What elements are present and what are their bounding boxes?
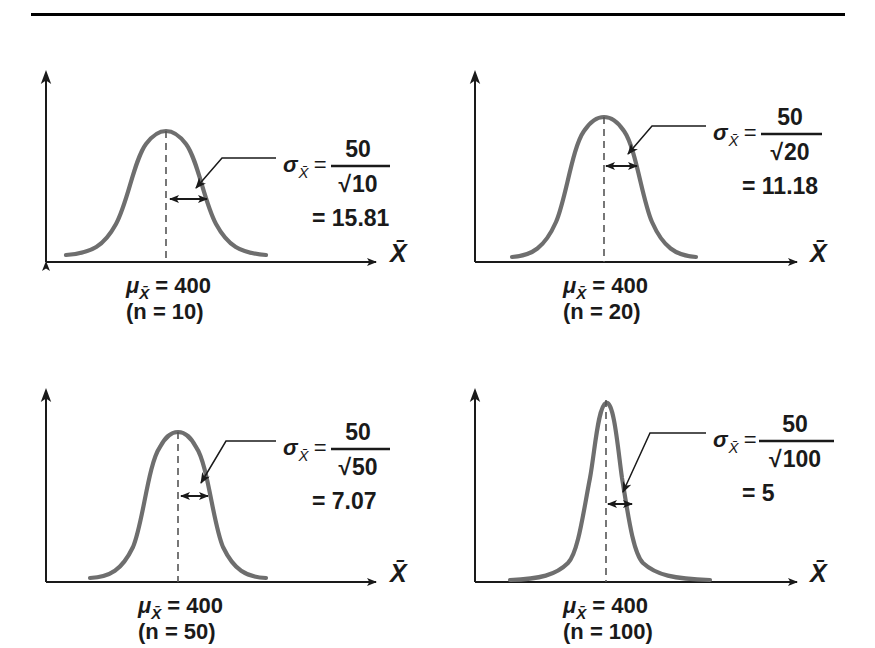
panel-n100-x-axis-label: X̄ bbox=[808, 559, 828, 587]
panel-n100: σX̄= 50 √100 = 5 X̄ μX̄= 400 (n = 100) bbox=[470, 388, 834, 644]
panel-n100-numerator: 50 bbox=[782, 411, 808, 437]
panel-n50-mean-label: μX̄= 400 bbox=[137, 593, 223, 622]
panel-n10-x-axis-label: X̄ bbox=[388, 239, 408, 267]
panel-n20-denominator: √20 bbox=[770, 139, 809, 165]
panel-n50-denominator: √50 bbox=[338, 454, 377, 480]
panel-n10-mean-label: μX̄= 400 bbox=[125, 273, 211, 302]
panel-n100-sigma-label: σX̄= bbox=[713, 427, 756, 456]
panel-n50-result: = 7.07 bbox=[312, 488, 377, 514]
panel-n20-sample-size-label: (n = 20) bbox=[563, 299, 641, 324]
panel-n50-sigma-label: σX̄= bbox=[283, 435, 326, 464]
panel-n20-mean-label: μX̄= 400 bbox=[562, 273, 648, 302]
panel-n20: σX̄= 50 √20 = 11.18 X̄ μX̄= 400 (n = 20) bbox=[470, 70, 828, 324]
panel-n100-sample-size-label: (n = 100) bbox=[563, 619, 653, 644]
panel-n20-distribution-curve bbox=[512, 117, 696, 257]
panel-n100-result: = 5 bbox=[742, 480, 775, 506]
panel-n50: σX̄= 50 √50 = 7.07 X̄ μX̄= 400 (n = 50) bbox=[41, 388, 408, 644]
sampling-distribution-figure: σX̄= 50 √10 = 15.81 X̄ μX̄= 400 (n = 10)… bbox=[0, 0, 875, 648]
panel-n20-result: = 11.18 bbox=[742, 173, 818, 199]
panel-n100-distribution-curve bbox=[510, 403, 710, 580]
panel-n10: σX̄= 50 √10 = 15.81 X̄ μX̄= 400 (n = 10) bbox=[41, 70, 408, 324]
figure-container: σX̄= 50 √10 = 15.81 X̄ μX̄= 400 (n = 10)… bbox=[0, 0, 875, 648]
panel-n10-sample-size-label: (n = 10) bbox=[126, 299, 204, 324]
panel-n20-x-axis-label: X̄ bbox=[808, 239, 828, 267]
panel-n10-sigma-label: σX̄= bbox=[283, 152, 326, 181]
panel-n10-numerator: 50 bbox=[345, 136, 371, 162]
panel-n10-leader-line bbox=[196, 158, 276, 188]
panel-n50-leader-line bbox=[201, 441, 276, 483]
panel-n50-sample-size-label: (n = 50) bbox=[138, 619, 216, 644]
panel-n100-mean-label: μX̄= 400 bbox=[562, 593, 648, 622]
panel-n100-leader-line bbox=[623, 433, 706, 492]
panel-n20-numerator: 50 bbox=[777, 104, 803, 130]
panel-n100-denominator: √100 bbox=[769, 446, 821, 472]
panel-n10-denominator: √10 bbox=[338, 171, 377, 197]
panel-n20-leader-line bbox=[628, 126, 706, 154]
panel-n50-numerator: 50 bbox=[345, 419, 371, 445]
panel-n20-sigma-label: σX̄= bbox=[713, 120, 756, 149]
panel-n50-x-axis-label: X̄ bbox=[388, 559, 408, 587]
panel-n10-result: = 15.81 bbox=[312, 205, 390, 231]
